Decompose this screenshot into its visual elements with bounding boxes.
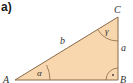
triangle — [15, 17, 118, 80]
side-a-label: a — [121, 42, 126, 53]
side-c-label: c — [64, 80, 69, 83]
vertex-a-label: A — [2, 74, 10, 83]
gamma-label: γ — [105, 26, 109, 36]
right-triangle-diagram: A B C b a c α γ — [0, 0, 133, 83]
right-angle-dot — [112, 74, 114, 76]
vertex-c-label: C — [114, 4, 121, 15]
alpha-label: α — [37, 68, 42, 78]
vertex-b-label: B — [120, 74, 126, 83]
side-b-label: b — [60, 35, 65, 46]
